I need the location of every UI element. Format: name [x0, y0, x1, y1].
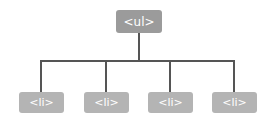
li-node-4: <li> — [212, 92, 257, 113]
li-node-1: <li> — [19, 92, 64, 113]
connector-child-2 — [105, 60, 107, 92]
ul-root-node: <ul> — [116, 10, 162, 33]
connector-root-stem — [138, 33, 140, 62]
connector-child-3 — [169, 60, 171, 92]
ul-root-label: <ul> — [123, 15, 154, 29]
connector-horizontal-bar — [40, 60, 235, 62]
li-node-2: <li> — [84, 92, 129, 113]
li-label: <li> — [158, 96, 183, 109]
li-label: <li> — [222, 96, 247, 109]
connector-child-1 — [40, 60, 42, 92]
connector-child-4 — [233, 60, 235, 92]
li-label: <li> — [29, 96, 54, 109]
li-node-3: <li> — [148, 92, 193, 113]
li-label: <li> — [94, 96, 119, 109]
